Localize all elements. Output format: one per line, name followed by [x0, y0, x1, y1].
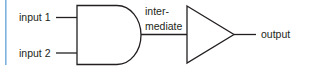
buffer-triangle-shape — [187, 6, 234, 63]
output-label: output — [261, 28, 290, 40]
intermediate-label-line2: mediate — [145, 20, 183, 32]
input-1-label: input 1 — [19, 11, 51, 23]
input-2-label: input 2 — [19, 47, 51, 59]
logic-diagram: input 1 input 2 inter- mediate output — [0, 0, 311, 71]
and-gate-shape — [77, 6, 141, 65]
intermediate-label-line1: inter- — [145, 5, 169, 17]
accent-bar — [5, 0, 7, 65]
